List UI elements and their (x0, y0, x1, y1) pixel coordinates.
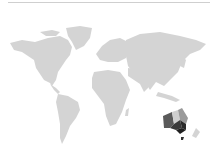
arctic-islands (40, 30, 60, 36)
madagascar (125, 108, 129, 116)
southeast-asia-islands (156, 92, 180, 102)
south-america (56, 94, 80, 144)
western-australia (163, 112, 174, 128)
tasmania (181, 137, 184, 140)
central-america (50, 84, 60, 94)
africa (92, 70, 130, 126)
new-zealand (192, 128, 200, 138)
europe (96, 38, 130, 62)
world-map (0, 0, 220, 153)
north-america (10, 36, 72, 86)
